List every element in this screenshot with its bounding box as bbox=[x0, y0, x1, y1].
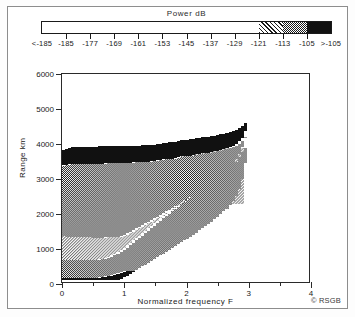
x-tick bbox=[249, 282, 250, 288]
y-axis-title: Range km bbox=[18, 138, 27, 178]
legend-segment-white bbox=[42, 22, 259, 33]
y-tick-label: 5000 bbox=[36, 105, 54, 114]
plot-area: 0100020003000400050006000 01234 bbox=[61, 73, 310, 283]
x-minor-tick bbox=[93, 282, 94, 286]
legend-segment-checker bbox=[283, 22, 307, 33]
legend-tick-label: -113 bbox=[275, 39, 290, 48]
y-tick-label: 3000 bbox=[36, 175, 54, 184]
legend-tick-label: -185 bbox=[58, 39, 74, 48]
legend-tick-label: -177 bbox=[82, 39, 98, 48]
copyright-credit: © RSGB bbox=[311, 296, 341, 305]
y-tick bbox=[56, 144, 62, 145]
y-tick-label: 4000 bbox=[36, 140, 54, 149]
y-tick bbox=[56, 74, 62, 75]
y-tick-label: 0 bbox=[50, 280, 54, 289]
y-tick-label: 2000 bbox=[36, 210, 54, 219]
legend-tick-label: -137 bbox=[203, 39, 219, 48]
legend-tick-label: -161 bbox=[130, 39, 146, 48]
x-tick bbox=[187, 282, 188, 288]
legend-tick-label: -145 bbox=[179, 39, 195, 48]
legend-segment-solid-black bbox=[307, 22, 331, 33]
y-tick-label: 6000 bbox=[36, 70, 54, 79]
x-tick bbox=[62, 282, 63, 288]
contour-plot bbox=[62, 74, 309, 282]
legend-tick-label: -121 bbox=[251, 39, 267, 48]
legend-tick-label: >-105 bbox=[321, 39, 341, 48]
legend-colorbar bbox=[41, 21, 332, 34]
x-minor-tick bbox=[280, 282, 281, 286]
y-tick bbox=[56, 179, 62, 180]
legend-tick-label: -105 bbox=[299, 39, 315, 48]
legend-tick-label: -129 bbox=[227, 39, 243, 48]
figure-panel: Power dB <-185-185-177-169-161-153-145-1… bbox=[0, 0, 355, 317]
x-minor-tick bbox=[155, 282, 156, 286]
legend-tick-label: -153 bbox=[155, 39, 171, 48]
legend-tick-label: -169 bbox=[106, 39, 122, 48]
x-minor-tick bbox=[218, 282, 219, 286]
legend-title: Power dB bbox=[41, 9, 332, 18]
y-tick-label: 1000 bbox=[36, 245, 54, 254]
legend-segment-diagonal-hatch bbox=[259, 22, 283, 33]
power-legend: Power dB <-185-185-177-169-161-153-145-1… bbox=[41, 9, 332, 45]
legend-tick-label: <-185 bbox=[32, 39, 52, 48]
x-tick bbox=[124, 282, 125, 288]
legend-tick-labels: <-185-185-177-169-161-153-145-137-129-12… bbox=[19, 39, 354, 51]
y-tick bbox=[56, 109, 62, 110]
y-tick bbox=[56, 214, 62, 215]
y-tick bbox=[56, 249, 62, 250]
x-tick bbox=[311, 282, 312, 288]
x-axis-title: Normalized frequency F bbox=[61, 297, 310, 306]
